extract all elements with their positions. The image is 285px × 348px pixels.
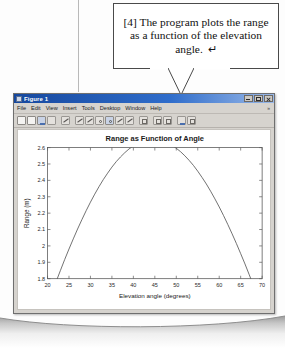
margin-guide-line	[78, 0, 79, 92]
zoom-in-icon[interactable]	[75, 116, 84, 125]
annotation-text: [4] The program plots the range as a fun…	[124, 16, 269, 55]
y-tick-label: 1.9	[37, 259, 45, 265]
x-tick-label: 45	[152, 282, 158, 288]
plot-canvas[interactable]: Range as Function of Angle20253035404550…	[17, 129, 271, 310]
callout-pointer-tail	[150, 68, 230, 96]
y-tick-label: 2.4	[37, 177, 45, 183]
y-tick-label: 2.3	[37, 194, 45, 200]
menu-item-insert[interactable]: Insert	[63, 103, 77, 113]
edit-plot-icon[interactable]	[61, 116, 70, 125]
show-plot-tools-icon[interactable]	[177, 116, 186, 125]
menu-overflow-icon[interactable]: »	[267, 105, 271, 111]
zoom-out-icon[interactable]	[85, 116, 94, 125]
x-tick-label: 65	[238, 282, 244, 288]
figure-app-icon	[16, 96, 22, 102]
toolbar-separator-5	[173, 116, 176, 125]
toolbar-separator-2	[71, 116, 74, 125]
annotation-callout-text: [4] The program plots the range as a fun…	[114, 16, 278, 57]
x-tick-label: 25	[66, 282, 72, 288]
maximize-button[interactable]	[254, 95, 263, 102]
toolbar-separator-3	[135, 116, 138, 125]
dock-figure-icon[interactable]	[187, 116, 196, 125]
menu-item-edit[interactable]: Edit	[31, 103, 41, 113]
y-tick-label: 2.2	[37, 210, 45, 216]
y-axis-label: Range (m)	[23, 198, 31, 228]
new-figure-icon[interactable]	[17, 116, 26, 125]
menu-item-tools[interactable]: Tools	[82, 103, 95, 113]
return-symbol-icon: ↵	[203, 43, 217, 55]
y-tick-label: 2.6	[37, 145, 45, 151]
x-tick-label: 55	[195, 282, 201, 288]
open-file-icon[interactable]	[27, 116, 36, 125]
hide-plot-tools-icon[interactable]	[163, 116, 172, 125]
figure-window[interactable]: Figure 1 File Edit View Insert Tools Des…	[13, 93, 275, 314]
x-tick-label: 20	[44, 282, 50, 288]
minimize-button[interactable]	[244, 95, 253, 102]
y-tick-label: 2.1	[37, 226, 45, 232]
figure-toolbar[interactable]	[14, 114, 274, 128]
book-page-background: [4] The program plots the range as a fun…	[0, 0, 285, 348]
menu-item-window[interactable]: Window	[125, 103, 145, 113]
pan-icon[interactable]	[95, 116, 104, 125]
x-tick-label: 60	[216, 282, 222, 288]
range-vs-angle-plot: Range as Function of Angle20253035404550…	[18, 130, 270, 309]
insert-colorbar-icon[interactable]	[139, 116, 148, 125]
x-tick-label: 70	[259, 282, 265, 288]
window-title: Figure 1	[24, 96, 243, 102]
print-figure-icon[interactable]	[47, 116, 56, 125]
x-tick-label: 35	[109, 282, 115, 288]
x-axis-label: Elevation angle (degrees)	[119, 292, 191, 300]
brush-icon[interactable]	[125, 116, 134, 125]
y-tick-label: 2.5	[37, 161, 45, 167]
y-tick-label: 1.8	[37, 276, 45, 282]
toolbar-separator-1	[57, 116, 60, 125]
annotation-callout: [4] The program plots the range as a fun…	[113, 3, 279, 69]
chart-title: Range as Function of Angle	[106, 134, 204, 143]
x-tick-label: 30	[87, 282, 93, 288]
x-tick-label: 40	[130, 282, 136, 288]
menu-item-help[interactable]: Help	[150, 103, 162, 113]
page-curl-shadow	[0, 314, 285, 348]
insert-legend-icon[interactable]	[153, 116, 162, 125]
menu-bar[interactable]: File Edit View Insert Tools Desktop Wind…	[14, 103, 274, 114]
toolbar-separator-4	[149, 116, 152, 125]
x-tick-label: 50	[173, 282, 179, 288]
y-tick-label: 2	[42, 243, 45, 249]
data-cursor-icon[interactable]	[115, 116, 124, 125]
rotate-3d-icon[interactable]	[105, 116, 114, 125]
menu-item-file[interactable]: File	[17, 103, 26, 113]
close-button[interactable]	[264, 95, 273, 102]
menu-item-desktop[interactable]: Desktop	[100, 103, 121, 113]
save-figure-icon[interactable]	[37, 116, 46, 125]
window-title-bar[interactable]: Figure 1	[14, 94, 274, 103]
axes-frame	[48, 148, 263, 279]
menu-item-view[interactable]: View	[46, 103, 58, 113]
